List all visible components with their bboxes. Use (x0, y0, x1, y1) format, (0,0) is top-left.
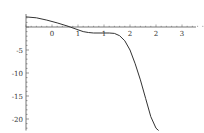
x-tick-label: 2 (154, 30, 158, 38)
x-tick-label: 1 (76, 30, 80, 38)
line-chart: 011223-5-10-15-20 (0, 0, 204, 133)
data-series (26, 17, 159, 131)
tick-labels: 011223-5-10-15-20 (12, 30, 185, 124)
y-tick-label: -20 (12, 116, 23, 124)
y-tick-label: -10 (12, 70, 23, 78)
series-line (26, 17, 159, 131)
x-axis (26, 25, 204, 28)
x-tick-label: 1 (102, 30, 106, 38)
x-tick-label: 3 (180, 30, 184, 38)
x-tick-label: 0 (50, 30, 54, 38)
y-tick-label: -15 (12, 93, 23, 101)
x-tick-label: 2 (128, 30, 132, 38)
y-tick-label: -5 (16, 47, 23, 55)
y-axis (26, 14, 29, 131)
